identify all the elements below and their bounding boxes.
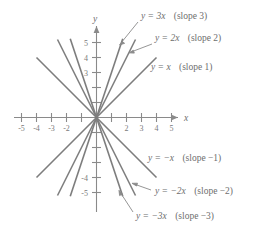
annotation-eq-y-neg-3x: y = −3x (135, 211, 168, 221)
x-tick-label: 2 (125, 124, 129, 133)
annotation-y-3x: y = 3x (slope 3) (140, 11, 207, 22)
annotation-slope-y-2x: (slope 2) (188, 33, 222, 44)
x-tick-label: 5 (170, 124, 174, 133)
x-tick-label: -5 (18, 124, 25, 133)
annotation-slope-y-neg-x: (slope −1) (182, 153, 221, 164)
y-tick-label: 3 (84, 69, 88, 78)
x-tick-label: 4 (155, 124, 159, 133)
y-axis-name: y (92, 14, 98, 24)
y-axis-arrow (94, 26, 100, 33)
y-tick-label: 4 (84, 54, 88, 63)
annotation-y-neg-x: y = −x (slope −1) (147, 153, 221, 164)
annotation-eq-y-neg-x: y = −x (147, 153, 175, 163)
coordinate-plane-figure: -5 -4 -3 -2 2 3 4 5 5 4 3 -4 -5 x y (0, 0, 269, 237)
annotation-y-neg-3x: y = −3x (slope −3) (135, 211, 214, 222)
annotation-y-2x: y = 2x (slope 2) (154, 33, 221, 44)
annotation-y-neg-2x: y = −2x (slope −2) (154, 186, 233, 197)
x-axis-name: x (183, 113, 189, 123)
annotation-slope-y-neg-3x: (slope −3) (175, 211, 214, 222)
annotation-slope-y-neg-2x: (slope −2) (194, 186, 233, 197)
leader-arrow-3x (120, 42, 125, 46)
y-tick-label: -5 (81, 189, 88, 198)
annotation-eq-y-x: y = x (150, 62, 171, 72)
y-tick-label: -4 (81, 174, 88, 183)
x-tick-label: 3 (140, 124, 144, 133)
x-tick-label: -2 (63, 124, 70, 133)
y-tick-label: 5 (84, 39, 88, 48)
annotation-slope-y-3x: (slope 3) (174, 11, 208, 22)
annotation-eq-y-3x: y = 3x (140, 11, 166, 21)
x-tick-labels: -5 -4 -3 -2 2 3 4 5 (18, 124, 173, 133)
x-tick-label: -4 (33, 124, 40, 133)
line-slopes-chart: -5 -4 -3 -2 2 3 4 5 5 4 3 -4 -5 x y (0, 0, 269, 237)
leader-2x (131, 44, 152, 52)
x-tick-label: -3 (48, 124, 55, 133)
annotation-slope-y-x: (slope 1) (179, 62, 213, 73)
annotation-eq-y-2x: y = 2x (154, 33, 180, 43)
annotation-eq-y-neg-2x: y = −2x (154, 186, 187, 196)
annotation-y-x: y = x (slope 1) (150, 62, 212, 73)
leader-arrow-n2x (132, 183, 138, 186)
leader-n3x (120, 192, 133, 212)
